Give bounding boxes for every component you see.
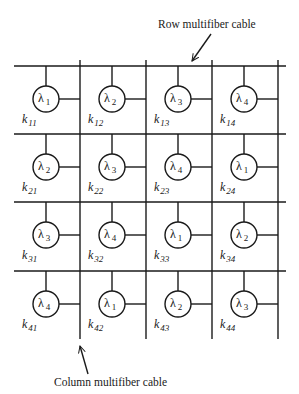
node-k-label: k13 bbox=[154, 112, 170, 128]
node-14: λ4k14 bbox=[220, 66, 278, 128]
node-k-label: k12 bbox=[88, 112, 104, 128]
node-k-label: k42 bbox=[88, 317, 104, 333]
node-k-label: k21 bbox=[22, 180, 37, 196]
node-12: λ2k12 bbox=[88, 66, 146, 128]
node-k-label: k43 bbox=[154, 317, 170, 333]
node-41: λ4k41 bbox=[22, 271, 80, 333]
node-k-label: k23 bbox=[154, 180, 170, 196]
node-21: λ2k21 bbox=[22, 134, 80, 196]
node-k-label: k41 bbox=[22, 317, 37, 333]
wavelength-grid-diagram: Row multifiber cable λ1k11λ2k12λ3k13λ4k1… bbox=[0, 0, 299, 394]
node-34: λ2k34 bbox=[220, 202, 278, 264]
node-k-label: k22 bbox=[88, 180, 104, 196]
node-k-label: k11 bbox=[22, 112, 37, 128]
node-k-label: k33 bbox=[154, 248, 170, 264]
node-33: λ1k33 bbox=[154, 202, 212, 264]
row-cable-label: Row multifiber cable bbox=[158, 18, 256, 30]
node-22: λ3k22 bbox=[88, 134, 146, 196]
node-k-label: k24 bbox=[220, 180, 236, 196]
node-13: λ3k13 bbox=[154, 66, 212, 128]
node-43: λ2k43 bbox=[154, 271, 212, 333]
node-42: λ1k42 bbox=[88, 271, 146, 333]
column-cable-label: Column multifiber cable bbox=[54, 376, 167, 388]
node-32: λ4k32 bbox=[88, 202, 146, 264]
node-k-label: k32 bbox=[88, 248, 104, 264]
node-24: λ1k24 bbox=[220, 134, 278, 196]
row-cable-arrow bbox=[192, 34, 211, 61]
node-23: λ4k23 bbox=[154, 134, 212, 196]
column-cable-arrow bbox=[80, 346, 88, 374]
node-k-label: k34 bbox=[220, 248, 236, 264]
node-k-label: k31 bbox=[22, 248, 37, 264]
node-k-label: k14 bbox=[220, 112, 236, 128]
node-11: λ1k11 bbox=[22, 66, 80, 128]
node-k-label: k44 bbox=[220, 317, 236, 333]
node-31: λ3k31 bbox=[22, 202, 80, 264]
node-44: λ3k44 bbox=[220, 271, 278, 333]
grid-nodes: λ1k11λ2k12λ3k13λ4k14λ2k21λ3k22λ4k23λ1k24… bbox=[22, 66, 278, 333]
